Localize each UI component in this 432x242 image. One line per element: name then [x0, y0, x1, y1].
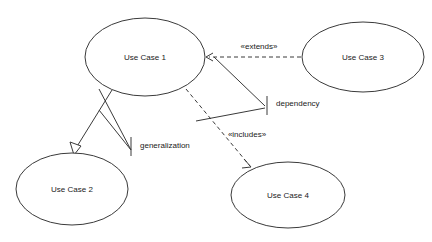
generalization-leader-lower — [99, 110, 131, 150]
use-case-4-label: Use Case 4 — [267, 191, 309, 200]
includes-arrowhead-icon — [242, 159, 251, 168]
use-case-1-label: Use Case 1 — [124, 53, 166, 62]
use-case-node-2[interactable]: Use Case 2 — [16, 153, 128, 225]
use-case-3-label: Use Case 3 — [342, 53, 384, 62]
use-case-node-4[interactable]: Use Case 4 — [231, 162, 345, 228]
annotation-generalization: generalization — [99, 89, 190, 156]
includes-stereotype-label: «includes» — [228, 130, 267, 139]
dependency-leader-lower — [196, 108, 265, 121]
uml-use-case-diagram: «extends» «includes» dependency generali… — [0, 0, 432, 242]
dependency-label: dependency — [276, 99, 320, 108]
relationship-includes: «includes» — [186, 89, 267, 168]
relationship-generalization — [70, 90, 112, 155]
dependency-leader-upper — [214, 57, 265, 106]
use-case-node-3[interactable]: Use Case 3 — [302, 22, 424, 92]
includes-line — [186, 89, 250, 166]
relationship-extends: «extends» — [206, 42, 301, 61]
generalization-label: generalization — [140, 141, 190, 150]
generalization-leader-upper — [99, 89, 131, 150]
extends-stereotype-label: «extends» — [241, 42, 278, 51]
use-case-node-1[interactable]: Use Case 1 — [85, 18, 205, 96]
use-case-2-label: Use Case 2 — [51, 185, 93, 194]
annotation-dependency: dependency — [196, 57, 320, 121]
